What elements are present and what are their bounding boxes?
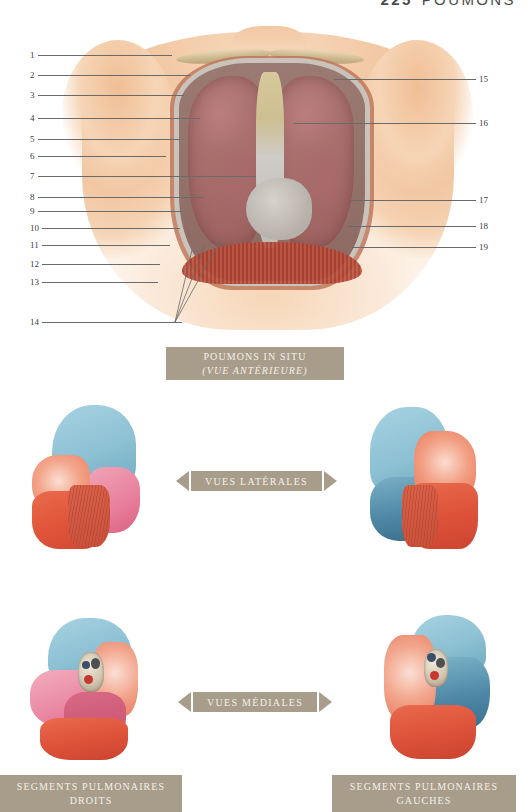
label-anterior-8: 8 — [30, 193, 204, 202]
label-anterior-11: 11 — [30, 241, 170, 250]
label-anterior-16: 16 — [294, 119, 488, 128]
label-anterior-5: 5 — [30, 135, 180, 144]
bronchus — [91, 658, 100, 669]
segment-inferior-lobe — [40, 718, 128, 760]
caption-line-1: SEGMENTS PULMONAIRES — [17, 780, 165, 794]
label-anterior-17: 17 — [350, 196, 488, 205]
figure-lateral-right-lung: 1 2 3 6 8 9 10 4 5 — [0, 400, 180, 560]
figure-poumons-in-situ: 1 2 3 4 5 6 7 8 9 10 11 12 13 14 — [0, 0, 532, 340]
caption-line-1: SEGMENTS PULMONAIRES — [350, 780, 498, 794]
shoulder-right — [361, 40, 473, 190]
caption-segments-pulmonaires-droits: SEGMENTS PULMONAIRES DROITS — [0, 775, 182, 812]
label-anterior-10: 10 — [30, 224, 180, 233]
label-anterior-19: 19 — [352, 243, 488, 252]
label-anterior-4: 4 — [30, 114, 200, 123]
pericardium-heart — [246, 178, 312, 240]
right-lung-lateral-illustration — [32, 405, 140, 553]
figure-medial-left-lung: 11 6 7 10 1 2 3 4 5 8 9 — [340, 610, 532, 775]
label-anterior-18: 18 — [348, 222, 488, 231]
caption-line-2: GAUCHES — [397, 794, 452, 808]
banner-label: VUES LATÉRALES — [191, 471, 322, 491]
caption-line-2: DROITS — [70, 794, 113, 808]
label-anterior-3: 3 — [30, 91, 184, 100]
label-anterior-15: 15 — [334, 75, 488, 84]
bronchus — [436, 658, 445, 668]
label-anterior-2: 2 — [30, 71, 190, 80]
caption-line-2: (VUE ANTÉRIEURE) — [202, 364, 307, 378]
caption-line-1: POUMONS IN SITU — [203, 350, 306, 364]
label-anterior-7: 7 — [30, 172, 256, 181]
caption-poumons-in-situ: POUMONS IN SITU (VUE ANTÉRIEURE) — [166, 347, 344, 380]
figure-medial-right-lung: 1 2 3 5 6 7 8 9 11 10 — [0, 610, 190, 775]
hilum-root-of-lung — [424, 649, 448, 687]
pulmonary-artery — [427, 653, 436, 662]
left-lung-medial-illustration — [384, 615, 496, 765]
pulmonary-vein — [430, 671, 439, 680]
left-lung-lateral-illustration — [370, 405, 482, 555]
caption-segments-pulmonaires-gauches: SEGMENTS PULMONAIRES GAUCHES — [332, 775, 516, 812]
label-anterior-1: 1 — [30, 51, 172, 60]
segment-posterior-striations — [68, 485, 110, 547]
figure-lateral-left-lung: 1 2 3 4 5 6 8 9 10 — [352, 400, 532, 560]
label-anterior-9: 9 — [30, 207, 182, 216]
chevron-right-icon — [324, 471, 337, 491]
segment-inferior-lobe — [390, 705, 476, 759]
banner-vues-laterales: VUES LATÉRALES — [176, 471, 337, 491]
label-anterior-12: 12 — [30, 260, 160, 269]
banner-label: VUES MÉDIALES — [193, 692, 317, 712]
label-anterior-13: 13 — [30, 278, 158, 287]
banner-vues-mediales: VUES MÉDIALES — [178, 692, 332, 712]
chevron-right-icon — [319, 692, 332, 712]
label-anterior-6: 6 — [30, 152, 166, 161]
pulmonary-vein — [84, 675, 93, 684]
segment-posterior-striations — [402, 485, 438, 547]
page-root: 225POUMONS 1 2 3 4 5 — [0, 0, 532, 812]
label-anterior-14: 14 — [30, 318, 182, 327]
pulmonary-artery — [82, 661, 90, 669]
right-lung-medial-illustration — [30, 618, 146, 764]
hilum-root-of-lung — [78, 652, 104, 692]
